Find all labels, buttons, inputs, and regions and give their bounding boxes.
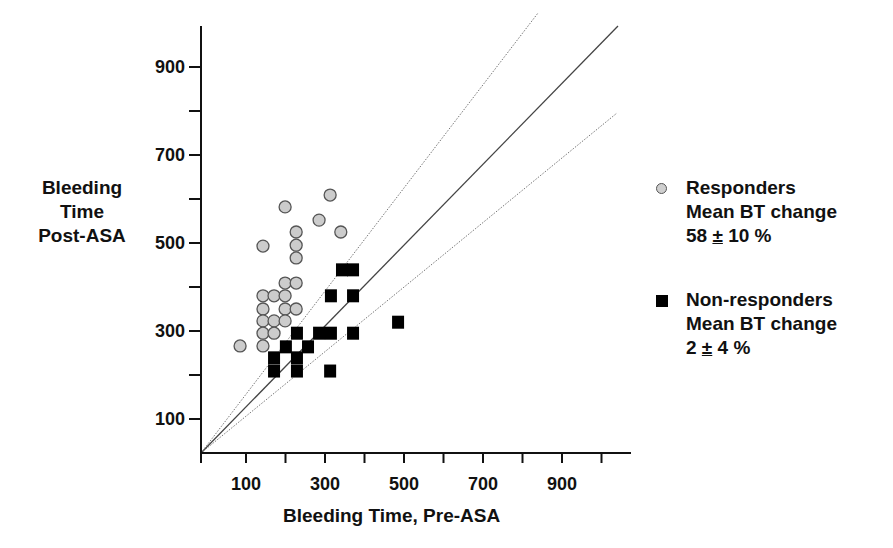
y-tick-label: 500 (155, 233, 185, 253)
x-tick-label: 500 (389, 474, 419, 494)
y-tick-label: 700 (155, 145, 185, 165)
legend-label: Responders (686, 176, 837, 200)
legend-label: Non-responders (686, 288, 837, 312)
y-tick-label: 100 (155, 409, 185, 429)
mean-value: 58 (686, 225, 707, 246)
y-axis-title-line2: Time (22, 200, 142, 224)
circle-marker-icon (656, 183, 667, 194)
responder-point (257, 240, 269, 252)
responder-point (290, 239, 302, 251)
y-tick-label: 900 (155, 57, 185, 77)
nonresponder-point (302, 340, 314, 353)
plus-minus: ± (702, 337, 712, 358)
nonresponder-point (280, 340, 292, 353)
x-tick-label: 300 (310, 474, 340, 494)
error-value: 4 % (718, 337, 751, 358)
responder-point (290, 252, 302, 264)
responder-point (335, 226, 347, 238)
responder-point (268, 290, 280, 302)
scatter-plot: 100300500700900100300500700900 (0, 0, 893, 548)
responder-point (268, 327, 280, 339)
responder-point (290, 277, 302, 289)
legend-stat: 2 ± 4 % (686, 336, 837, 360)
responder-point (257, 290, 269, 302)
error-value: 10 % (728, 225, 771, 246)
responder-point (279, 315, 291, 327)
nonresponder-point (268, 351, 280, 364)
responder-point (257, 303, 269, 315)
y-axis-title-line1: Bleeding (22, 176, 142, 200)
responder-point (279, 201, 291, 213)
axis-ticks: 100300500700900100300500700900 (155, 57, 602, 494)
responder-point (279, 303, 291, 315)
nonresponder-point (347, 263, 359, 276)
x-tick-label: 900 (547, 474, 577, 494)
nonresponder-point (291, 365, 303, 378)
responder-point (279, 277, 291, 289)
reference-line-lower (201, 113, 617, 453)
reference-lines (201, 13, 618, 453)
nonresponder-point (325, 327, 337, 340)
responder-point (257, 315, 269, 327)
y-tick-label: 300 (155, 321, 185, 341)
responder-point (257, 340, 269, 352)
responder-point (290, 226, 302, 238)
legend-stat: 58 ± 10 % (686, 224, 837, 248)
nonresponder-point (291, 327, 303, 340)
responder-point (268, 315, 280, 327)
responder-point (234, 340, 246, 352)
data-points (234, 189, 404, 378)
nonresponder-point (392, 316, 404, 329)
nonresponder-point (313, 327, 325, 340)
legend-subtitle: Mean BT change (686, 200, 837, 224)
nonresponder-point (268, 365, 280, 378)
responder-point (257, 327, 269, 339)
nonresponder-point (347, 327, 359, 340)
y-axis-title: Bleeding Time Post-ASA (22, 176, 142, 248)
nonresponder-point (336, 263, 348, 276)
nonresponder-point (347, 289, 359, 302)
x-tick-label: 100 (231, 474, 261, 494)
responder-point (290, 303, 302, 315)
square-marker-icon (656, 295, 668, 307)
x-tick-label: 700 (468, 474, 498, 494)
responder-point (313, 214, 325, 226)
y-axis-title-line3: Post-ASA (22, 224, 142, 248)
responder-point (324, 189, 336, 201)
legend-subtitle: Mean BT change (686, 312, 837, 336)
x-axis-title: Bleeding Time, Pre-ASA (283, 505, 500, 527)
nonresponder-point (291, 351, 303, 364)
nonresponder-point (324, 365, 336, 378)
reference-line-upper (201, 13, 538, 453)
nonresponder-point (325, 289, 337, 302)
responder-point (279, 290, 291, 302)
mean-value: 2 (686, 337, 697, 358)
plus-minus: ± (712, 225, 722, 246)
